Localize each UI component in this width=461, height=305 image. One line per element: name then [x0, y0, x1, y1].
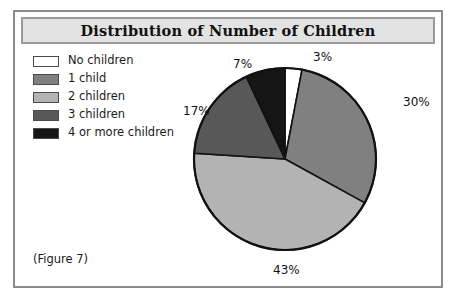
slice-label-no-children: 3%	[313, 50, 332, 64]
legend-item-1-child: 1 child	[33, 70, 208, 88]
pie-chart-svg	[190, 64, 380, 254]
legend-label-1-child: 1 child	[68, 73, 106, 85]
figure-caption: (Figure 7)	[33, 252, 88, 266]
page-title: Distribution of Number of Children	[81, 22, 376, 39]
pie-slice-1-child	[285, 70, 376, 203]
legend-swatch-4-or-more-children	[33, 128, 59, 139]
legend-item-4-or-more-children: 4 or more children	[33, 124, 208, 142]
pie-slice-4-or-more-children	[246, 68, 285, 159]
legend-swatch-2-children	[33, 92, 59, 103]
pie-slices	[194, 68, 376, 250]
legend-label-4-or-more-children: 4 or more children	[68, 127, 174, 139]
slice-label-4-or-more-children: 7%	[233, 57, 252, 71]
slice-label-1-child: 30%	[403, 95, 430, 109]
legend-item-no-children: No children	[33, 52, 208, 70]
chart-title-bar: Distribution of Number of Children	[21, 17, 435, 44]
pie-slice-no-children	[285, 68, 302, 159]
legend-item-3-children: 3 children	[33, 106, 208, 124]
legend-label-2-children: 2 children	[68, 91, 125, 103]
legend-swatch-1-child	[33, 74, 59, 85]
pie-slice-2-children	[194, 153, 365, 250]
pie-outline	[194, 68, 376, 250]
legend-label-3-children: 3 children	[68, 109, 125, 121]
legend-label-no-children: No children	[68, 55, 133, 67]
legend-item-2-children: 2 children	[33, 88, 208, 106]
slice-label-2-children: 43%	[273, 263, 300, 277]
legend-swatch-3-children	[33, 110, 59, 121]
figure-frame: Distribution of Number of Children No ch…	[13, 10, 443, 288]
chart-legend: No children 1 child 2 children 3 childre…	[33, 52, 208, 142]
legend-swatch-no-children	[33, 56, 59, 67]
